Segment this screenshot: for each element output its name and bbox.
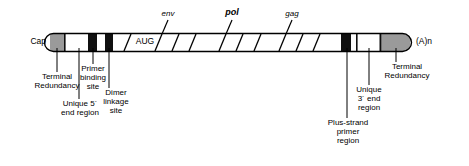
gene-stem-env (162, 20, 168, 34)
genome-bar-fills (50, 32, 410, 53)
aug-label: AUG (131, 37, 159, 47)
diagram-canvas: Cap (A)n env pol gag AUG Terminal Redund… (0, 0, 469, 166)
cap-label: Cap (8, 37, 46, 47)
gene-stem-gag (286, 20, 292, 34)
divider-5tr (64, 32, 66, 53)
gene-label-env: env (148, 10, 188, 19)
divider-3tr (380, 32, 382, 53)
divider-3prime-a (356, 32, 358, 53)
gene-label-pol: pol (212, 7, 252, 17)
gene-stems (162, 20, 292, 34)
callout-plus-strand-primer-region: Plus-strand primer region (314, 119, 382, 146)
gene-stem-pol (226, 20, 232, 34)
segment-plus-strand-primer-region (341, 32, 351, 53)
callout-unique-3-end-region: Unique 3´ end region (346, 86, 392, 113)
callout-terminal-redundancy-right: Terminal Redundancy (371, 63, 443, 81)
polyA-label: (A)n (416, 37, 464, 47)
gene-label-gag: gag (272, 10, 312, 19)
callout-dimer-linkage-site: Dimer linkage site (95, 89, 137, 116)
